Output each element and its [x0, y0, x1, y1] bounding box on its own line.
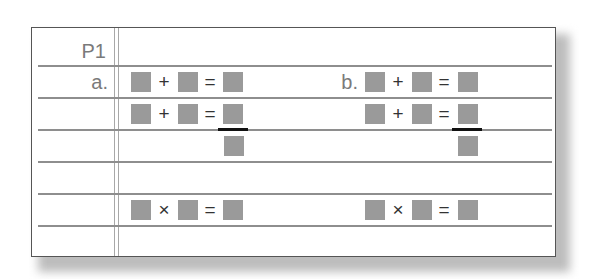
margin-line-right	[118, 28, 119, 256]
multiply-sign: ×	[388, 200, 408, 220]
rule-line-1	[38, 65, 552, 67]
answer-box[interactable]	[458, 72, 478, 92]
answer-box[interactable]	[178, 200, 198, 220]
plus-sign: +	[154, 104, 174, 124]
margin-line-left	[114, 28, 115, 256]
answer-box[interactable]	[131, 72, 151, 92]
equals-sign: =	[200, 72, 220, 92]
answer-box[interactable]	[458, 104, 478, 124]
answer-box[interactable]	[412, 104, 432, 124]
answer-box[interactable]	[178, 72, 198, 92]
rule-line-2	[38, 97, 552, 99]
equals-sign: =	[434, 72, 454, 92]
answer-box[interactable]	[458, 200, 478, 220]
rule-line-6	[38, 225, 552, 227]
carry-bar	[218, 128, 248, 131]
answer-box[interactable]	[412, 200, 432, 220]
answer-box[interactable]	[365, 72, 385, 92]
problem-a-label: a.	[72, 72, 108, 92]
worksheet-grid: P1 a. + = + = × = b. + = + = × =	[31, 27, 556, 257]
answer-box[interactable]	[223, 72, 243, 92]
answer-box[interactable]	[412, 72, 432, 92]
answer-box[interactable]	[131, 200, 151, 220]
rule-line-4	[38, 161, 552, 163]
answer-box[interactable]	[131, 104, 151, 124]
answer-box[interactable]	[365, 104, 385, 124]
answer-box[interactable]	[223, 200, 243, 220]
plus-sign: +	[388, 72, 408, 92]
plus-sign: +	[388, 104, 408, 124]
answer-box[interactable]	[223, 104, 243, 124]
equals-sign: =	[434, 200, 454, 220]
carry-box[interactable]	[224, 136, 244, 156]
problem-set-label: P1	[72, 41, 106, 61]
rule-line-5	[38, 193, 552, 195]
answer-box[interactable]	[178, 104, 198, 124]
problem-b-label: b.	[328, 72, 358, 92]
carry-box[interactable]	[458, 136, 478, 156]
equals-sign: =	[200, 200, 220, 220]
equals-sign: =	[434, 104, 454, 124]
equals-sign: =	[200, 104, 220, 124]
carry-bar	[452, 128, 482, 131]
answer-box[interactable]	[365, 200, 385, 220]
multiply-sign: ×	[154, 200, 174, 220]
plus-sign: +	[154, 72, 174, 92]
